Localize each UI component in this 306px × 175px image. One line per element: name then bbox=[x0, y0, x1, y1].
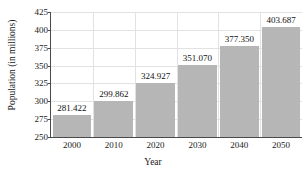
bar-value-label: 403.687 bbox=[266, 15, 295, 25]
x-tick-label: 2040 bbox=[230, 140, 248, 150]
bar bbox=[220, 46, 259, 137]
bar-value-label: 299.862 bbox=[99, 89, 128, 99]
bar bbox=[262, 27, 301, 137]
bar bbox=[178, 65, 217, 137]
bar-chart-figure: Population (in millions) 250275300325350… bbox=[0, 0, 306, 175]
y-tick-label: 350 bbox=[35, 61, 49, 71]
x-tick-label: 2050 bbox=[272, 140, 290, 150]
y-tick-label: 250 bbox=[35, 132, 49, 142]
chart-title bbox=[0, 0, 306, 2]
y-axis-title: Population (in millions) bbox=[7, 0, 17, 135]
bar bbox=[94, 101, 133, 137]
y-tick-label: 275 bbox=[35, 114, 49, 124]
plot-area: 250275300325350375400425281.4222000299.8… bbox=[50, 12, 302, 138]
x-tick-label: 2020 bbox=[147, 140, 165, 150]
bar bbox=[53, 115, 92, 137]
x-tick-label: 2000 bbox=[63, 140, 81, 150]
x-axis-title: Year bbox=[0, 157, 306, 167]
bar-value-label: 281.422 bbox=[57, 103, 86, 113]
bar-value-label: 324.927 bbox=[141, 71, 170, 81]
y-tick-label: 400 bbox=[35, 25, 49, 35]
x-tick-label: 2030 bbox=[188, 140, 206, 150]
y-tick-label: 300 bbox=[35, 96, 49, 106]
bar-value-label: 377.350 bbox=[225, 34, 254, 44]
bar-value-label: 351.070 bbox=[183, 53, 212, 63]
y-tick-label: 325 bbox=[35, 78, 49, 88]
x-tick-label: 2010 bbox=[105, 140, 123, 150]
y-tick-label: 375 bbox=[35, 43, 49, 53]
y-tick-label: 425 bbox=[35, 7, 49, 17]
bar bbox=[136, 83, 175, 137]
